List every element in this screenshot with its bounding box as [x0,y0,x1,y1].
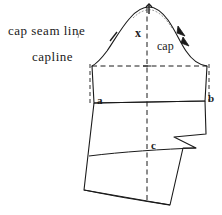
cap-seam-curve-path [92,7,207,66]
sleeve-pattern-diagram: cap seam line capline cap x a b c [0,0,222,215]
cap-label: cap [157,40,174,52]
ab-line [94,101,205,103]
point-c-label: c [151,140,156,151]
c-line-path [89,148,196,156]
x-label: x [135,27,141,39]
hem-curve-path [84,190,170,205]
lower-body-outline-path [84,101,206,205]
point-a-label: a [97,95,103,106]
right-curve-notch-upper-icon [177,26,185,36]
cap-seam-line-label: cap seam line [8,24,85,37]
capline-label: capline [32,50,73,63]
point-b-label: b [208,93,214,104]
upper-body-outline-path [92,66,207,103]
